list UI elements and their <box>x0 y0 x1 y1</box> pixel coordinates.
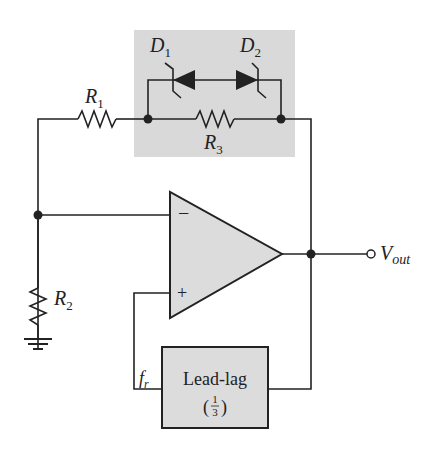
svg-text:): ) <box>221 397 227 418</box>
label-r1: R1 <box>84 85 104 111</box>
svg-text:(: ( <box>203 397 209 418</box>
schematic-svg: D1 D2 R1 R3 R2 Vout fr − + Lead-lag ( 1 … <box>0 0 442 451</box>
label-fr: fr <box>139 368 149 391</box>
svg-text:1: 1 <box>212 393 218 405</box>
label-vout: Vout <box>380 242 411 267</box>
lead-lag-gain: ( 1 3 ) <box>203 393 227 418</box>
minus-input-sign: − <box>178 202 189 224</box>
label-r2: R2 <box>53 287 73 313</box>
vout-terminal <box>367 250 375 258</box>
svg-text:3: 3 <box>212 406 218 418</box>
r1-resistor <box>78 111 116 127</box>
lead-lag-label: Lead-lag <box>183 369 247 389</box>
circuit-diagram: D1 D2 R1 R3 R2 Vout fr − + Lead-lag ( 1 … <box>0 0 442 451</box>
plus-input-sign: + <box>177 283 187 303</box>
